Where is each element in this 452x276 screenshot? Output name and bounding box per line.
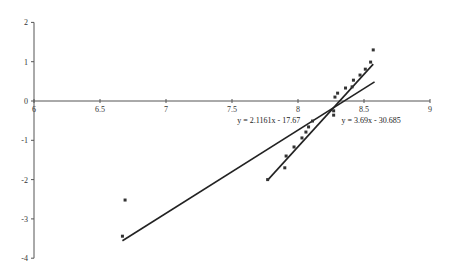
data-points — [121, 48, 375, 237]
trendline-equation-1: y = 2.1161x - 17.67 — [237, 116, 300, 125]
x-tick-label: 8 — [296, 105, 300, 114]
x-tick-label: 6.5 — [95, 105, 105, 114]
data-point — [333, 96, 336, 99]
data-point — [124, 199, 127, 202]
data-point — [352, 79, 355, 82]
data-point — [332, 114, 335, 117]
y-tick-label: 2 — [24, 18, 28, 27]
data-point — [372, 48, 375, 51]
data-point — [283, 166, 286, 169]
data-point — [359, 74, 362, 77]
data-point — [311, 120, 314, 123]
data-point — [304, 131, 307, 134]
data-point — [307, 125, 310, 128]
data-point — [369, 61, 372, 64]
x-tick-label: 9 — [428, 105, 432, 114]
x-tick-label: 7.5 — [227, 105, 237, 114]
data-point — [364, 68, 367, 71]
data-point — [266, 178, 269, 181]
data-point — [121, 235, 124, 238]
y-tick-label: 0 — [24, 97, 28, 106]
y-tick-label: 1 — [24, 58, 28, 67]
x-tick-label: 6 — [32, 105, 36, 114]
data-point — [285, 155, 288, 158]
y-tick-label: -4 — [21, 254, 28, 263]
trendline-1 — [122, 82, 374, 241]
trendline-equation-2: y = 3.69x - 30.685 — [342, 116, 401, 125]
trendlines — [122, 64, 374, 241]
y-tick-label: -1 — [21, 136, 28, 145]
data-point — [300, 136, 303, 139]
data-point — [336, 92, 339, 95]
y-tick-label: -2 — [21, 176, 28, 185]
data-point — [332, 109, 335, 112]
x-tick-label: 7 — [164, 105, 168, 114]
y-tick-label: -3 — [21, 215, 28, 224]
data-point — [344, 87, 347, 90]
data-point — [293, 145, 296, 148]
scatter-chart: 66.577.588.59 210-1-2-3-4 y = 2.1161x - … — [0, 0, 452, 276]
axes — [34, 22, 430, 258]
x-tick-label: 8.5 — [359, 105, 369, 114]
y-axis-ticks: 210-1-2-3-4 — [21, 18, 34, 263]
data-point — [351, 85, 354, 88]
